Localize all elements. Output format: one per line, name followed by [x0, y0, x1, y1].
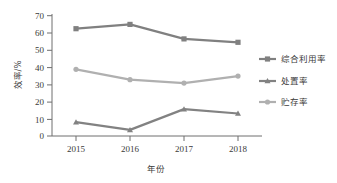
line-chart: 70 60 50 40 30 20 10 0 2015 2016 2017 20… [0, 0, 337, 183]
legend-label-comprehensive-utilization-rate: 综合利用率 [281, 54, 326, 64]
y-tick-label-50: 50 [35, 45, 45, 55]
legend-item-disposal-rate[interactable]: 处置率 [259, 76, 308, 86]
data-point-storage-2016 [127, 77, 132, 82]
x-tick-label-2017: 2017 [175, 144, 194, 154]
data-point-comprehensive-2017 [181, 36, 186, 41]
data-point-storage-2017 [181, 81, 186, 86]
series-storage-rate [73, 67, 240, 86]
legend-item-storage-rate[interactable]: 贮存率 [259, 97, 308, 107]
series-line-disposal-rate [76, 109, 238, 130]
legend-label-disposal-rate: 处置率 [281, 76, 308, 86]
series-line-comprehensive-utilization-rate [76, 24, 238, 42]
x-tick-label-2015: 2015 [67, 144, 86, 154]
x-axis-title: 年份 [147, 164, 165, 174]
legend-marker-storage-icon [265, 99, 270, 104]
chart-canvas: 70 60 50 40 30 20 10 0 2015 2016 2017 20… [0, 0, 337, 183]
y-tick-label-30: 30 [35, 80, 45, 90]
chart-legend: 综合利用率 处置率 贮存率 [259, 54, 326, 107]
series-disposal-rate [73, 106, 241, 132]
x-axis-ticks [76, 136, 238, 141]
data-point-storage-2015 [73, 67, 78, 72]
y-tick-label-60: 60 [35, 28, 45, 38]
x-tick-label-2016: 2016 [121, 144, 140, 154]
y-tick-label-20: 20 [35, 97, 45, 107]
legend-label-storage-rate: 贮存率 [281, 97, 308, 107]
series-comprehensive-utilization-rate [73, 22, 240, 45]
y-tick-label-10: 10 [35, 115, 45, 125]
series-line-storage-rate [76, 69, 238, 83]
data-point-comprehensive-2018 [235, 40, 240, 45]
y-tick-label-70: 70 [35, 11, 45, 21]
x-tick-label-2018: 2018 [229, 144, 248, 154]
legend-marker-comprehensive-icon [265, 56, 270, 61]
y-tick-label-0: 0 [40, 131, 45, 141]
legend-item-comprehensive-utilization-rate[interactable]: 综合利用率 [259, 54, 326, 64]
data-point-comprehensive-2015 [73, 26, 78, 31]
data-point-storage-2018 [235, 74, 240, 79]
y-axis-ticks [47, 16, 52, 136]
data-point-comprehensive-2016 [127, 22, 132, 27]
y-tick-label-40: 40 [35, 63, 45, 73]
y-axis-title: 效率/% [13, 61, 23, 90]
